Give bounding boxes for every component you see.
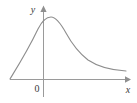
plot-canvas: y x 0 — [0, 0, 137, 103]
y-axis-arrowhead-icon — [40, 6, 46, 13]
x-axis-label: x — [125, 84, 131, 95]
origin-label: 0 — [35, 83, 40, 94]
x-axis-arrowhead-icon — [125, 76, 131, 83]
figure-container: y x 0 — [0, 0, 137, 103]
y-axis-label: y — [30, 4, 36, 15]
density-curve — [10, 17, 126, 79]
